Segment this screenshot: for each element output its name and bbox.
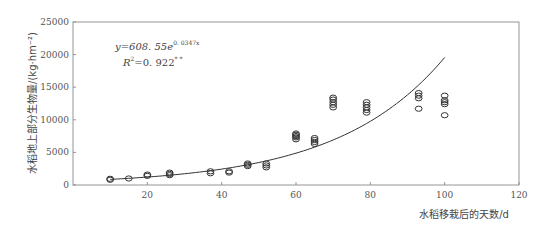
y-tick-label: 10000	[40, 115, 69, 125]
data-point	[226, 169, 233, 174]
x-axis-title: 水稻移栽后的天数/d	[419, 208, 509, 220]
x-tick-label: 120	[510, 190, 527, 200]
data-point	[415, 106, 422, 111]
data-point	[144, 172, 151, 177]
data-point	[226, 170, 233, 175]
y-axis-title: 水稻地上部分生物量/(kg·hm⁻²)	[26, 32, 38, 174]
data-points	[107, 90, 448, 182]
y-tick-label: 20000	[40, 50, 69, 60]
data-point	[144, 173, 151, 178]
data-point	[441, 113, 448, 118]
x-tick-label: 20	[142, 190, 154, 200]
y-axis: 0500010000150002000025000	[40, 17, 76, 190]
equation-annotation: y=608. 55e0. 0347x R2=0. 922* *	[114, 39, 200, 68]
y-tick-label: 0	[63, 180, 69, 190]
equation-text: y=608. 55e0. 0347x	[114, 39, 200, 52]
y-tick-label: 15000	[40, 82, 69, 92]
x-tick-label: 80	[365, 190, 377, 200]
scatter-chart: 0500010000150002000025000 20406080100120…	[0, 0, 550, 228]
x-tick-label: 40	[216, 190, 228, 200]
data-point	[166, 171, 173, 176]
regression-curve	[110, 57, 445, 179]
x-tick-label: 100	[436, 190, 453, 200]
y-tick-label: 25000	[40, 17, 69, 27]
r-squared-text: R2=0. 922* *	[122, 55, 182, 68]
x-tick-label: 60	[290, 190, 302, 200]
y-tick-label: 5000	[46, 147, 69, 157]
